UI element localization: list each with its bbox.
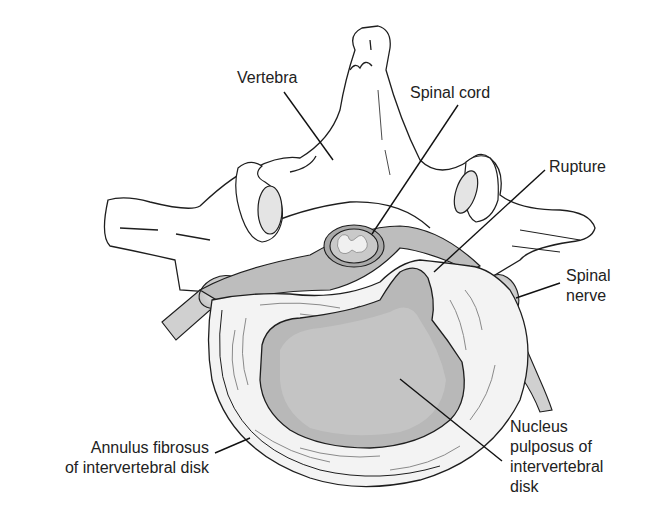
label-nucleus-line2: pulposus of [510, 437, 592, 456]
herniated-disk-diagram: Vertebra Spinal cord Rupture Spinal nerv… [0, 0, 652, 523]
label-annulus-line2: of intervertebral disk [22, 458, 209, 477]
leader-annulus [215, 438, 250, 453]
label-nucleus-line1: Nucleus [510, 417, 568, 436]
label-spinal-cord: Spinal cord [410, 83, 490, 102]
label-spinal-nerve-line2: nerve [566, 286, 606, 305]
label-rupture: Rupture [549, 157, 606, 176]
leader-spinal-nerve [516, 283, 560, 298]
spinal-cord [324, 225, 384, 267]
label-spinal-nerve-line1: Spinal [566, 266, 610, 285]
label-annulus-line1: Annulus fibrosus [22, 438, 209, 457]
facet-right [450, 156, 499, 222]
label-vertebra: Vertebra [237, 68, 297, 87]
label-nucleus-line4: disk [510, 477, 538, 496]
label-nucleus-line3: intervertebral [510, 457, 603, 476]
leader-vertebra [284, 92, 333, 160]
